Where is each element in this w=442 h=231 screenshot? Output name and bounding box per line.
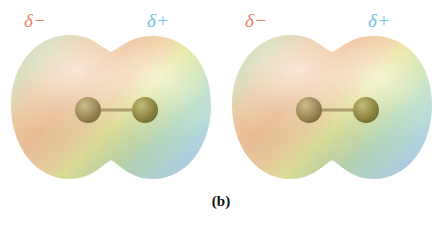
atom-right-sphere (132, 97, 158, 123)
esp-surface-left (8, 33, 214, 181)
delta-positive-label-right: δ+ (368, 11, 391, 30)
delta-positive-label-left: δ+ (147, 11, 170, 30)
figure-container: δ− δ+ (0, 0, 442, 231)
esp-surface-right (229, 33, 435, 181)
figure-caption: (b) (0, 192, 442, 210)
atom-left-sphere (296, 97, 322, 123)
molecule-panel-left: δ− δ+ (0, 0, 221, 190)
molecule-panel-right: δ− δ+ (221, 0, 442, 190)
esp-blob-left (8, 33, 214, 181)
delta-negative-label-left: δ− (24, 11, 47, 30)
delta-negative-label-right: δ− (245, 11, 268, 30)
esp-blob-right (229, 33, 435, 181)
atom-left-sphere (75, 97, 101, 123)
atom-right-sphere (353, 97, 379, 123)
